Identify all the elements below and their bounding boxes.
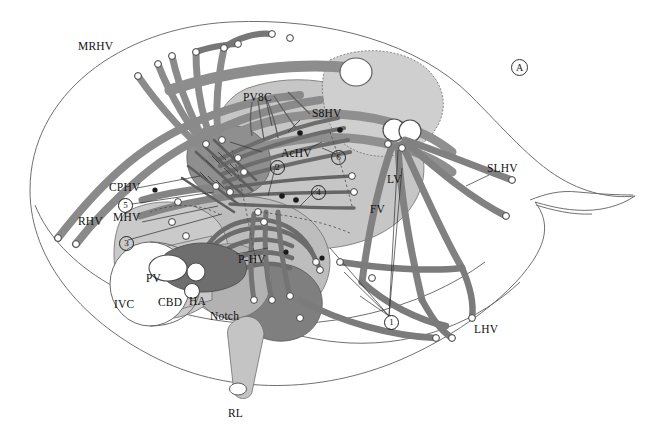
label-ha: HA	[189, 296, 206, 308]
callout-number-2: 2	[270, 160, 285, 175]
label-s8hv: S8HV	[312, 108, 342, 120]
label-pv: PV	[146, 273, 161, 285]
label-lhv: LHV	[474, 324, 498, 336]
rhv-secondary	[196, 34, 272, 52]
cbd-lumen	[187, 263, 205, 281]
label-lv: LV	[387, 174, 402, 186]
callout-number-5: 5	[118, 198, 133, 213]
liver-anatomy-diagram	[0, 0, 653, 427]
callout-number-1: 1	[384, 315, 399, 330]
callout-number-3: 3	[119, 236, 134, 251]
label-mrhv: MRHV	[78, 41, 113, 53]
callout-number-4: 4	[311, 185, 326, 200]
panel-marker-a: A	[511, 59, 528, 76]
label-p-hv: P-HV	[238, 254, 266, 266]
label-pv8c: PV8C	[243, 92, 272, 104]
label-fv: FV	[370, 204, 385, 216]
label-rl: RL	[228, 408, 243, 420]
vessel-lumen-ostium	[340, 58, 372, 86]
label-notch: Notch	[210, 311, 239, 323]
callout-number-6: 6	[331, 150, 346, 165]
label-slhv: SLHV	[487, 163, 518, 175]
figure-canvas: MRHV PV8C S8HV AcHV SLHV LV CPHV FV RHV …	[0, 0, 653, 427]
label-rhv: RHV	[78, 216, 103, 228]
label-cbd: CBD	[158, 297, 182, 309]
label-mhv: MHV	[113, 212, 140, 224]
label-ivc: IVC	[114, 299, 134, 311]
label-cphv: CPHV	[109, 182, 140, 194]
label-achv: AcHV	[281, 148, 312, 160]
